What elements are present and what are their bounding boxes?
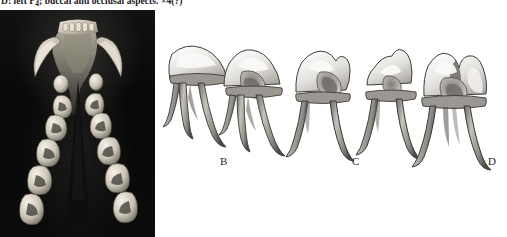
tooth-b-left [163,46,226,147]
tooth-d-main [412,53,491,170]
palate-photograph-panel [0,10,155,237]
figure-caption-strip: D: left P4; buccal and occlusal aspects.… [0,0,507,9]
figure-caption-prefix: D: left P [1,0,35,6]
tooth-b-right [219,50,285,156]
specimen-label-b: B [220,156,228,167]
tooth-drawings-illustration [160,10,507,237]
tooth-c-right [356,50,420,159]
tooth-drawings-panel [160,10,507,237]
photo-film-grain [0,10,155,237]
specimen-label-c: C [352,156,360,167]
figure-caption: D: left P4; buccal and occlusal aspects.… [1,0,182,8]
figure-caption-rest: ; buccal and occlusal aspects. ×4(?) [39,0,182,6]
tooth-c-left [286,51,354,161]
specimen-label-d: D [488,156,496,167]
